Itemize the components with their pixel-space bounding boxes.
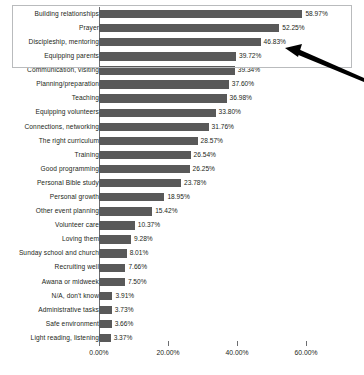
tick-label: 20.00%	[156, 349, 179, 356]
bar-row: Awana or midweek7.50%	[0, 275, 364, 289]
bar-container: 33.80%	[99, 106, 364, 120]
bar-value-label: 18.95%	[167, 194, 189, 201]
bar-value-label: 7.66%	[128, 264, 147, 271]
category-label: Volunteer care	[55, 222, 99, 229]
bar-row: Other event planning15.42%	[0, 204, 364, 218]
category-label: Equipping volunteers	[35, 109, 99, 116]
bar	[99, 207, 152, 215]
bar	[99, 193, 164, 201]
bar-row: Teaching36.98%	[0, 92, 364, 106]
bar-container: 3.66%	[99, 317, 364, 331]
bar	[99, 306, 112, 314]
bar	[99, 264, 125, 272]
bar-row: Planning/preparation37.60%	[0, 77, 364, 91]
bar-container: 26.25%	[99, 162, 364, 176]
bar-value-label: 26.25%	[193, 166, 215, 173]
bar	[99, 123, 209, 131]
bar-row: Safe environment3.66%	[0, 317, 364, 331]
bar-value-label: 3.91%	[115, 293, 134, 300]
category-label: Planning/preparation	[36, 81, 99, 88]
bar	[99, 137, 198, 145]
bar-value-label: 9.28%	[134, 236, 153, 243]
bar	[99, 38, 261, 46]
bar-container: 39.72%	[99, 49, 364, 63]
bar	[99, 151, 191, 159]
tick-mark	[306, 341, 307, 346]
bar-container: 7.66%	[99, 261, 364, 275]
bar	[99, 66, 235, 74]
bar-row: Personal Bible study23.78%	[0, 176, 364, 190]
bar	[99, 165, 190, 173]
bar-value-label: 23.78%	[184, 180, 206, 187]
category-label: Sunday school and church	[19, 250, 99, 257]
bar-value-label: 37.60%	[232, 81, 254, 88]
bar-value-label: 31.76%	[212, 124, 234, 131]
bar-value-label: 36.98%	[230, 95, 252, 102]
bar-container: 36.98%	[99, 92, 364, 106]
category-label: Communication, visiting	[27, 67, 99, 74]
tick-mark	[168, 341, 169, 346]
category-label: Awana or midweek	[42, 279, 99, 286]
bar-value-label: 58.97%	[305, 11, 327, 18]
bar	[99, 278, 125, 286]
category-label: Loving them	[62, 236, 99, 243]
category-label: Teaching	[72, 95, 99, 102]
bar-container: 52.25%	[99, 21, 364, 35]
bar-value-label: 39.34%	[238, 67, 260, 74]
bar-row: Discipleship, mentoring46.83%	[0, 35, 364, 49]
bar	[99, 320, 112, 328]
category-label: N/A, don't know	[52, 293, 99, 300]
bar-value-label: 3.73%	[115, 307, 134, 314]
bar	[99, 179, 181, 187]
category-label: Discipleship, mentoring	[29, 39, 99, 46]
bar	[99, 94, 227, 102]
bar-row: Volunteer care10.37%	[0, 218, 364, 232]
category-label: Personal Bible study	[37, 180, 99, 187]
bar-container: 31.76%	[99, 120, 364, 134]
bar-value-label: 28.57%	[201, 138, 223, 145]
category-label: Personal growth	[50, 194, 99, 201]
tick-mark	[237, 341, 238, 346]
bar	[99, 249, 127, 257]
bar-value-label: 26.54%	[194, 152, 216, 159]
bar-container: 58.97%	[99, 7, 364, 21]
bar-row: Recruiting well7.66%	[0, 261, 364, 275]
bar-value-label: 7.50%	[128, 279, 147, 286]
bar-row: Loving them9.28%	[0, 233, 364, 247]
bar-row: Prayer52.25%	[0, 21, 364, 35]
category-label: Administrative tasks	[38, 307, 99, 314]
bar-value-label: 33.80%	[219, 109, 241, 116]
bar-container: 15.42%	[99, 204, 364, 218]
bar	[99, 24, 279, 32]
category-label: The right curriculum	[39, 138, 99, 145]
bar-chart: Building relationships58.97%Prayer52.25%…	[0, 0, 364, 375]
tick-label: 40.00%	[225, 349, 248, 356]
x-axis-ticks: 0.00%20.00%40.00%60.00%	[0, 341, 364, 371]
bar-row: Connections, networking31.76%	[0, 120, 364, 134]
category-label: Equipping parents	[44, 53, 99, 60]
category-label: Training	[75, 152, 99, 159]
bar-value-label: 3.66%	[115, 321, 134, 328]
bar-container: 9.28%	[99, 233, 364, 247]
tick-mark	[99, 341, 100, 346]
bar-container: 39.34%	[99, 63, 364, 77]
bar-row: Equipping volunteers33.80%	[0, 106, 364, 120]
bar-container: 10.37%	[99, 218, 364, 232]
bar-container: 46.83%	[99, 35, 364, 49]
bar-row: Communication, visiting39.34%	[0, 63, 364, 77]
bar-row: Sunday school and church8.01%	[0, 247, 364, 261]
tick-label: 0.00%	[89, 349, 108, 356]
bar-value-label: 15.42%	[155, 208, 177, 215]
bar-value-label: 46.83%	[264, 39, 286, 46]
bar	[99, 80, 229, 88]
category-label: Safe environment	[46, 321, 99, 328]
bar-value-label: 10.37%	[138, 222, 160, 229]
bar-container: 37.60%	[99, 77, 364, 91]
bar-rows: Building relationships58.97%Prayer52.25%…	[0, 7, 364, 345]
category-label: Building relationships	[34, 11, 99, 18]
bar-container: 8.01%	[99, 247, 364, 261]
bar-row: Personal growth18.95%	[0, 190, 364, 204]
bar-value-label: 52.25%	[282, 25, 304, 32]
bar-row: Training26.54%	[0, 148, 364, 162]
bar	[99, 292, 112, 300]
